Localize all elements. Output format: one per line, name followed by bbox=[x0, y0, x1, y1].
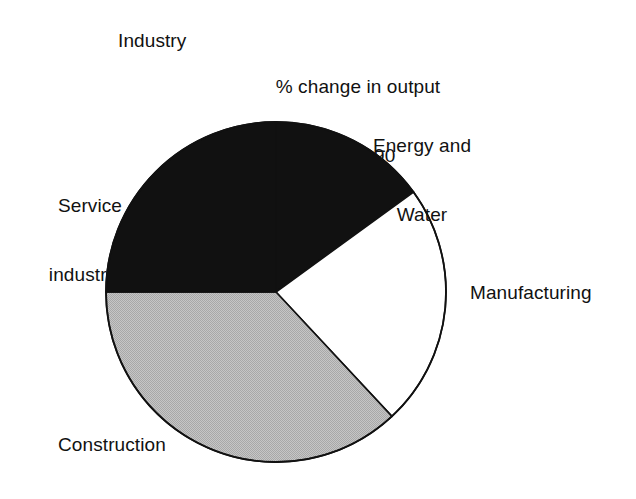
slice-label-energy-and-water-line1: Energy and bbox=[352, 134, 492, 157]
slice-label-service-industries-line2: industries bbox=[22, 263, 158, 286]
axis-caption-industry: Industry bbox=[118, 29, 186, 52]
slice-label-service-industries: Service industries bbox=[22, 148, 158, 332]
slice-label-manufacturing: Manufacturing bbox=[470, 281, 592, 304]
pie-chart: Industry % change in output 1985–90 Ener… bbox=[0, 0, 636, 499]
slice-label-service-industries-line1: Service bbox=[22, 194, 158, 217]
slice-label-construction: Construction bbox=[58, 433, 166, 456]
slice-label-energy-and-water: Energy and Water bbox=[352, 88, 492, 272]
slice-label-energy-and-water-line2: Water bbox=[352, 203, 492, 226]
